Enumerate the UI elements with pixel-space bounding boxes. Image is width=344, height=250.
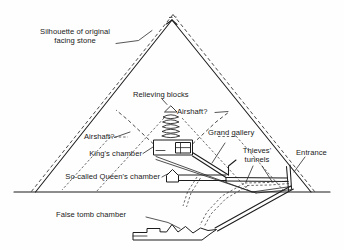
leader-entrance (294, 157, 305, 172)
label-so-called-queens-chamber: So-called Queen's chamber (38, 172, 160, 181)
label-airshaft-left: Airshaft? (84, 132, 128, 141)
kings-chamber (154, 140, 193, 155)
leader-thieves-1 (246, 166, 253, 182)
false-tomb-chamber (133, 225, 217, 241)
pyramid-cross-section-diagram: Silhouette of original facing stone Reli… (0, 0, 344, 250)
label-thieves-tunnels: Thieves' tunnels (232, 146, 282, 164)
leader-false-tomb (146, 217, 180, 229)
label-entrance: Entrance (296, 148, 344, 157)
leader-kings-chamber (143, 147, 153, 154)
leader-thieves-2 (262, 166, 272, 182)
thieves-tunnels (183, 177, 289, 227)
label-false-tomb-chamber: False tomb chamber (56, 210, 148, 219)
label-silhouette-of-original-facing-stone: Silhouette of original facing stone (30, 27, 120, 45)
label-kings-chamber: King's chamber (62, 149, 142, 158)
label-airshaft-right: Airshaft? (177, 107, 221, 116)
leader-grand-gallery (212, 143, 225, 163)
leader-relieving-blocks (162, 99, 167, 105)
leader-silhouette (116, 31, 152, 44)
pyramid-outline (36, 20, 312, 192)
label-relieving-blocks: Relieving blocks (133, 90, 223, 99)
label-grand-gallery: Grand gallery (208, 128, 274, 137)
